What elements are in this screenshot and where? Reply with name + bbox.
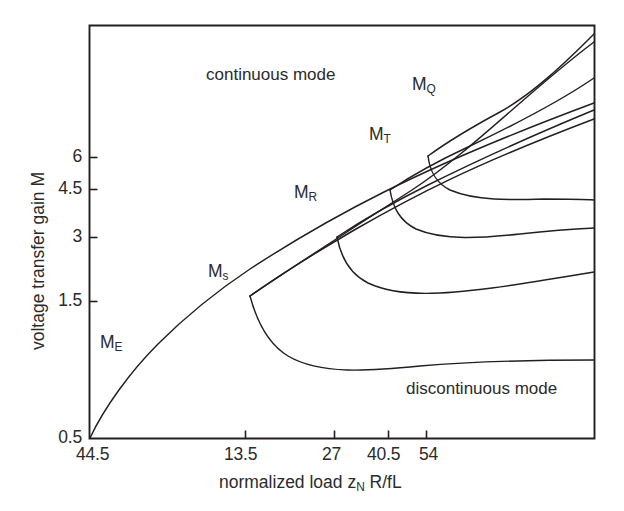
x-axis-title: normalized load zN R/fL (219, 474, 402, 492)
curve-label-mr: MR (294, 184, 317, 202)
x-axis-ticks (246, 431, 427, 439)
region-label-discontinuous-mode: discontinuous mode (406, 380, 557, 397)
curve-label-ms-base: M (208, 261, 223, 281)
curve-mr-lower-branch (337, 237, 594, 293)
curve-label-mt-subscript: T (384, 132, 391, 146)
curve-mt-upper-branch (390, 78, 594, 190)
curve-mq-upper-branch (428, 34, 594, 156)
curve-ms-upper-branch (250, 119, 594, 296)
x-axis-title-tail: R/fL (365, 472, 402, 492)
y-tick-label-6: 6 (28, 148, 82, 166)
y-tick-label-4-5: 4.5 (28, 180, 82, 198)
curve-label-mr-subscript: R (309, 190, 318, 204)
plot-frame (90, 26, 595, 439)
curve-label-mq-subscript: Q (427, 82, 436, 96)
curve-label-mt: MT (369, 126, 391, 144)
x-tick-label-54: 54 (419, 446, 438, 464)
x-axis-title-head: normalized load z (219, 472, 356, 492)
curve-label-me: ME (100, 334, 123, 352)
curve-label-me-subscript: E (115, 340, 123, 354)
curve-label-ms: Ms (208, 263, 229, 281)
curve-label-ms-subscript: s (223, 269, 229, 283)
curve-label-mq-base: M (412, 74, 427, 94)
chart-figure: voltage transfer gain M 6 4.5 3 1.5 0.5 … (0, 0, 624, 511)
curve-ms-lower-branch (250, 296, 594, 370)
x-tick-label-40-5: 40.5 (367, 446, 400, 464)
region-label-continuous-mode: continuous mode (206, 66, 335, 83)
y-tick-label-3: 3 (28, 228, 82, 246)
curve-mt-lower-branch (390, 190, 594, 238)
curve-label-me-base: M (100, 332, 115, 352)
curve-label-mq: MQ (412, 76, 436, 94)
y-axis-title-text: voltage transfer gain M (28, 172, 48, 350)
y-tick-label-0-5: 0.5 (28, 429, 82, 447)
y-axis-ticks (90, 158, 98, 302)
y-axis-title: voltage transfer gain M (30, 172, 48, 350)
curve-label-mr-base: M (294, 182, 309, 202)
y-tick-label-1-5: 1.5 (28, 292, 82, 310)
x-tick-label-44-5: 44.5 (76, 446, 109, 464)
x-axis-title-subscript: N (356, 480, 365, 494)
x-tick-label-13-5: 13.5 (224, 446, 257, 464)
curve-label-mt-base: M (369, 124, 384, 144)
x-tick-label-27: 27 (322, 446, 341, 464)
